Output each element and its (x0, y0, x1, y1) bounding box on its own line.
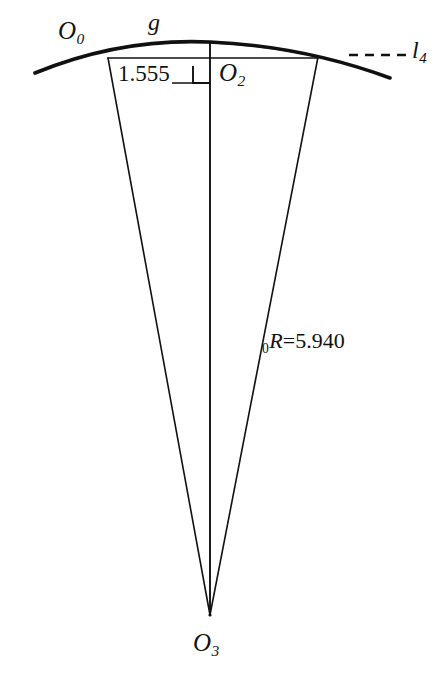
left-radius-line (108, 58, 210, 615)
label-point-O3: O3 (193, 630, 219, 658)
label-radius-symbol: R (269, 328, 282, 353)
label-radius-prefix-subscript: 0 (262, 341, 269, 356)
label-radius-value: 0R=5.940 (262, 330, 345, 355)
center-point-marker (208, 613, 211, 616)
label-point-O0: O0 (58, 18, 84, 46)
label-point-O2: O2 (219, 60, 245, 88)
figure-container: O0 g 1.555 O2 l4 0R=5.940 O3 (0, 0, 448, 673)
label-l4-letter: l (412, 37, 419, 63)
label-radius-equals: = (283, 328, 295, 353)
label-O3-subscript: 3 (212, 642, 220, 659)
label-tangent-l4: l4 (412, 38, 427, 66)
label-O0-subscript: 0 (77, 30, 85, 47)
right-angle-marker (193, 66, 210, 83)
label-l4-subscript: 4 (419, 50, 426, 66)
label-O2-subscript: 2 (238, 72, 246, 89)
label-O2-letter: O (219, 59, 237, 86)
arc-curve-g (35, 42, 390, 78)
label-radius-number: 5.940 (295, 328, 345, 353)
label-arc-g: g (148, 10, 160, 34)
diagram-canvas (0, 0, 448, 673)
label-mid-ordinate-value: 1.555 (118, 62, 170, 85)
label-O3-letter: O (193, 629, 211, 656)
label-O0-letter: O (58, 17, 76, 44)
